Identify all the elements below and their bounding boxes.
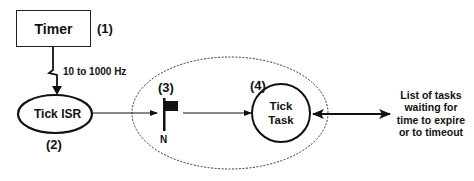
tick-task-label: Tick Task: [262, 100, 300, 128]
tick-task-label-line2: Task: [262, 114, 300, 128]
timer-box: Timer: [16, 10, 91, 47]
timer-label: Timer: [35, 22, 73, 36]
task-list-line3: time to expire: [392, 114, 470, 126]
tick-isr-label: Tick ISR: [34, 108, 81, 120]
semaphore-count-label: N: [160, 135, 167, 145]
task-list-line4: or to timeout: [392, 126, 470, 138]
semaphore-number: (3): [158, 81, 174, 94]
frequency-label: 10 to 1000 Hz: [63, 67, 126, 77]
task-list-line2: waiting for: [392, 101, 470, 113]
task-list-line1: List of tasks: [392, 89, 470, 101]
tick-task-number: (4): [250, 79, 266, 92]
semaphore-flag-icon: [163, 98, 178, 131]
tick-isr-number: (2): [46, 138, 62, 151]
tick-task-label-line1: Tick: [262, 100, 300, 114]
task-list-description: List of tasks waiting for time to expire…: [392, 89, 470, 139]
interrupt-arrowhead-icon: [52, 86, 62, 95]
interrupt-lightning-arrow: [49, 47, 57, 88]
diagram-canvas: Timer (1) 10 to 1000 Hz Tick ISR (2) (3)…: [0, 0, 474, 181]
timer-number: (1): [97, 22, 113, 35]
